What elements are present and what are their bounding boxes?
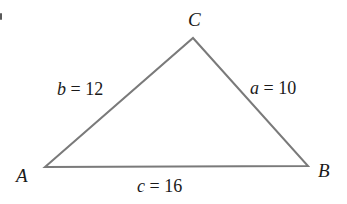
vertex-label-a: A — [16, 166, 28, 185]
side-label-c: c = 16 — [137, 177, 182, 195]
side-b-value: 12 — [85, 79, 103, 99]
side-c-variable: c — [137, 176, 145, 196]
side-label-a: a = 10 — [250, 79, 296, 97]
side-b-variable: b — [57, 79, 66, 99]
triangle-outline — [45, 38, 308, 167]
side-c-value: 16 — [164, 176, 182, 196]
triangle-drawing — [0, 0, 347, 204]
side-a-variable: a — [250, 78, 259, 98]
side-a-separator: = — [259, 78, 278, 98]
vertex-label-c: C — [188, 10, 201, 29]
side-b-separator: = — [66, 79, 85, 99]
side-c-separator: = — [145, 176, 164, 196]
vertex-label-b: B — [318, 161, 330, 180]
triangle-figure: A B C b = 12 a = 10 c = 16 — [0, 0, 347, 204]
side-a-value: 10 — [278, 78, 296, 98]
side-label-b: b = 12 — [57, 80, 103, 98]
scan-artifact-speck — [0, 13, 2, 20]
